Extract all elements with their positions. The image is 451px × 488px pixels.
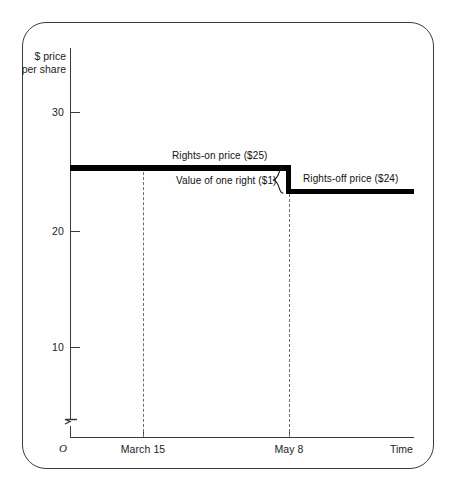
event-line-march-15	[143, 172, 144, 437]
y-axis-line	[70, 48, 71, 420]
y-axis-title-line2: per share	[14, 63, 66, 76]
annotation-value-of-one-right: Value of one right ($1)	[176, 175, 277, 186]
figure-container: $ price per share 30 20 10 O March 15 Ma…	[0, 0, 451, 488]
x-tick-label-march: March 15	[103, 443, 183, 455]
y-tick-mark-20	[71, 231, 80, 232]
rights-on-price-line	[70, 165, 291, 171]
axis-break-icon	[63, 414, 79, 430]
y-tick-label-10-wrap: 10	[30, 341, 64, 353]
y-axis-title-line1: $ price	[14, 50, 66, 63]
y-tick-mark-10	[71, 347, 80, 348]
y-tick-label-10: 10	[30, 341, 64, 353]
y-tick-mark-30	[71, 112, 80, 113]
annotation-rights-off-price: Rights-off price ($24)	[303, 173, 398, 184]
rights-off-price-line	[291, 189, 414, 195]
x-tick-label-may: May 8	[249, 443, 329, 455]
x-axis-line	[70, 437, 414, 438]
y-tick-label-30-wrap: 30	[30, 106, 64, 118]
chart-plot-area: $ price per share 30 20 10 O March 15 Ma…	[0, 0, 451, 488]
y-tick-label-20-wrap: 20	[30, 225, 64, 237]
origin-label: O	[59, 442, 67, 454]
event-line-may-8	[289, 174, 290, 437]
y-tick-label-30: 30	[30, 106, 64, 118]
annotation-rights-on-price: Rights-on price ($25)	[172, 150, 267, 161]
y-axis-title: $ price per share	[14, 50, 66, 76]
x-axis-title: Time	[390, 443, 413, 455]
y-tick-label-20: 20	[30, 225, 64, 237]
